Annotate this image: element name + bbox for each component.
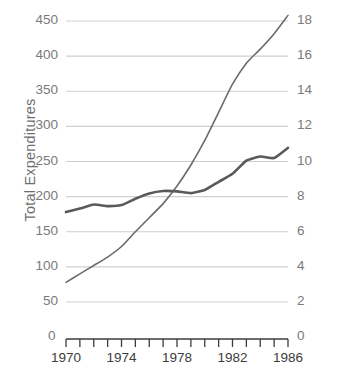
y-axis-left-zero-label: 0 [48,328,56,343]
x-axis-tick-label: 1970 [43,350,89,365]
y-axis-right-zero-label: 0 [297,328,305,343]
x-axis-tick-label: 1974 [99,350,145,365]
x-axis-tick-label: 1978 [154,350,200,365]
chart-container: Total Expenditures Percent of Gross Nati… [0,0,338,381]
x-axis-tick-label: 1986 [265,350,311,365]
x-axis-tick-label: 1982 [210,350,256,365]
x-axis-ruler [0,0,338,381]
